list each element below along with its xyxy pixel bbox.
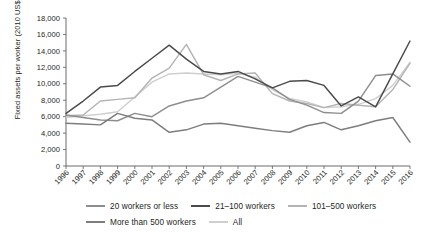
x-tick-label: 2015: [379, 168, 397, 186]
legend-label-21-100-workers: 21–100 workers: [215, 202, 275, 211]
x-tick-label: 2002: [156, 168, 174, 186]
x-tick-label: 1996: [53, 168, 71, 186]
chart-figure: Fixed assets per worker (2010 US$) 18,00…: [0, 0, 428, 236]
y-tick-label: 14,000: [37, 47, 60, 56]
y-tick-label: 12,000: [37, 63, 60, 72]
legend-swatch-101-500-workers: [288, 205, 307, 207]
legend-label-20-workers-or-less: 20 workers or less: [110, 202, 178, 211]
y-tick-label: 10,000: [37, 79, 60, 88]
legend-item-20-workers-or-less[interactable]: 20 workers or less: [86, 202, 178, 211]
axis-lines: [66, 18, 410, 166]
x-tick-label: 2009: [276, 168, 294, 186]
chart-legend: 20 workers or less 21–100 workers 101–50…: [0, 198, 428, 230]
x-tick-label: 2000: [121, 168, 139, 186]
x-tick-label: 2005: [207, 168, 225, 186]
x-tick-label: 1998: [87, 168, 105, 186]
series-line-2: [66, 44, 410, 116]
y-tick-label: 0: [56, 162, 60, 171]
legend-swatch-more-than-500-workers: [86, 221, 105, 223]
legend-label-101-500-workers: 101–500 workers: [312, 202, 376, 211]
x-tick-label: 2013: [345, 168, 363, 186]
x-tick-label: 2004: [190, 168, 208, 186]
x-tick-label: 2008: [259, 168, 277, 186]
x-tick-label: 1999: [104, 168, 122, 186]
y-tick-label: 16,000: [37, 30, 60, 39]
y-tick-label: 6,000: [41, 112, 60, 121]
legend-label-all: All: [233, 218, 242, 227]
y-tick-label: 8,000: [41, 96, 60, 105]
y-tick-label: 4,000: [41, 129, 60, 138]
legend-item-101-500-workers[interactable]: 101–500 workers: [288, 202, 376, 211]
x-tick-label: 2012: [328, 168, 346, 186]
legend-item-more-than-500-workers[interactable]: More than 500 workers: [86, 218, 196, 227]
legend-item-21-100-workers[interactable]: 21–100 workers: [191, 202, 275, 211]
x-tick-label: 1997: [70, 168, 88, 186]
x-tick-label: 2016: [397, 168, 415, 186]
y-tick-label: 18,000: [37, 14, 60, 23]
legend-label-more-than-500-workers: More than 500 workers: [110, 218, 196, 227]
series-line-4: [66, 62, 410, 117]
x-tick-label: 2007: [242, 168, 260, 186]
legend-swatch-all: [209, 221, 228, 223]
x-tick-label: 2001: [139, 168, 157, 186]
legend-item-all[interactable]: All: [209, 218, 242, 227]
x-tick-label: 2010: [293, 168, 311, 186]
line-chart-plot: 18,00016,00014,00012,00010,0008,0006,000…: [0, 0, 428, 196]
x-tick-label: 2003: [173, 168, 191, 186]
y-tick-label: 2,000: [41, 145, 60, 154]
legend-row-2: More than 500 workers All: [0, 214, 428, 230]
legend-row-1: 20 workers or less 21–100 workers 101–50…: [0, 198, 428, 214]
x-tick-label: 2014: [362, 168, 380, 186]
legend-swatch-21-100-workers: [191, 205, 210, 207]
x-tick-label: 2006: [225, 168, 243, 186]
series-line-3: [66, 113, 410, 142]
legend-swatch-20-workers-or-less: [86, 205, 105, 207]
x-tick-label: 2011: [311, 168, 329, 186]
